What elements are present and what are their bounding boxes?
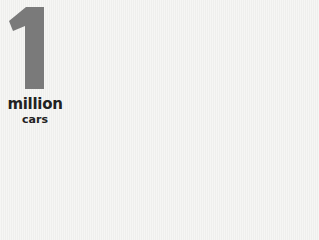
- stat-subject-label: cars: [0, 113, 70, 126]
- stat-unit-label: million: [0, 95, 70, 113]
- numeral-one-graphic: [0, 0, 70, 92]
